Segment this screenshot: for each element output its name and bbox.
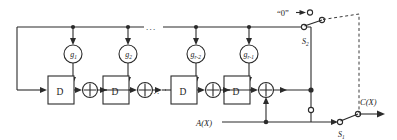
tap-drop-lines: [73, 27, 249, 40]
tap-multiplier-g2: g2: [119, 45, 137, 63]
switch-s2-blade[interactable]: [305, 20, 323, 26]
output-signal-label: C(X): [360, 97, 377, 107]
lfsr-encoder-diagram: g1 g2 gr-2 gr-1: [0, 0, 397, 140]
switch-s1-label: S1: [338, 130, 345, 140]
switch-linkage-dashed: [323, 14, 359, 113]
tap-label-subscript: 1: [74, 54, 77, 60]
tap-multiplier-gr2: gr-2: [187, 45, 205, 63]
delay-box-label: D: [180, 87, 187, 97]
top-ellipsis: ...: [146, 22, 156, 32]
output-bus-lower-contact[interactable]: [308, 107, 313, 112]
zero-input-arrow: [296, 10, 306, 15]
delay-box-label: D: [233, 87, 240, 97]
junction-dot-input-branch: [264, 120, 269, 125]
input-branch-arrowhead: [263, 97, 269, 104]
tap-label-subscript: r-1: [247, 54, 254, 60]
figure-container: g1 g2 gr-2 gr-1: [0, 0, 397, 140]
junction-dot-output-bus: [308, 87, 313, 92]
switch-s2[interactable]: [301, 17, 324, 29]
delay-box-d1: D: [48, 76, 74, 104]
tap-label-subscript: 2: [129, 54, 132, 60]
tap-output-lines: [73, 63, 249, 80]
tap-multiplier-g1: g1: [64, 45, 82, 63]
switch-s2-label: S2: [302, 37, 309, 47]
tap-drop-arrowheads: [70, 38, 252, 45]
input-signal-label: A(X): [195, 118, 212, 128]
zero-input-label: “0”: [277, 8, 289, 18]
xor-gate-1: [83, 83, 98, 98]
tap-label-subscript: r-2: [194, 54, 201, 60]
xor-gate-4: [259, 83, 274, 98]
switch-s1[interactable]: [337, 111, 360, 124]
delay-box-label: D: [112, 87, 119, 97]
delay-box-d3: D: [171, 76, 197, 104]
tap-multiplier-gr1: gr-1: [240, 45, 258, 63]
switch-s1-blade[interactable]: [341, 114, 359, 121]
switch-s2-contact-zero[interactable]: [307, 10, 312, 15]
feedback-into-d1-arrow: [17, 87, 47, 93]
xor-gate-3: [206, 83, 221, 98]
bottom-ellipsis: ...: [150, 86, 160, 96]
output-signal-arrow: [359, 111, 385, 118]
delay-box-label: D: [57, 87, 64, 97]
